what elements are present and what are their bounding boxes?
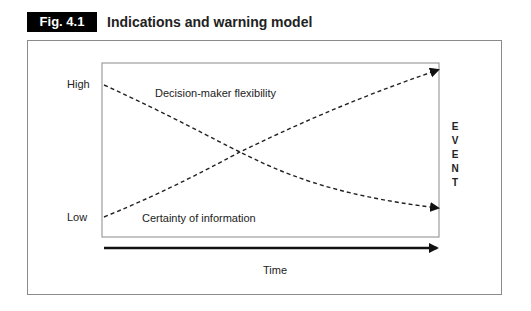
time-label: Time bbox=[263, 264, 287, 276]
event-letter: N bbox=[448, 162, 462, 176]
y-low-label: Low bbox=[67, 211, 87, 223]
flexibility-label: Decision-maker flexibility bbox=[155, 87, 276, 99]
certainty-label: Certainty of information bbox=[142, 212, 256, 224]
y-high-label: High bbox=[67, 78, 90, 90]
event-letter: E bbox=[448, 120, 462, 134]
flexibility-curve bbox=[104, 85, 438, 208]
event-letter: V bbox=[448, 134, 462, 148]
event-letter: T bbox=[448, 176, 462, 190]
event-label: E V E N T bbox=[448, 120, 462, 190]
event-letter: E bbox=[448, 148, 462, 162]
